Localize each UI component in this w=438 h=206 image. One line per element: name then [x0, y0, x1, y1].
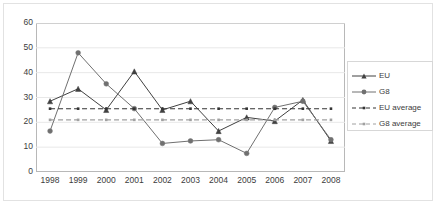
data-point-marker — [49, 119, 52, 122]
legend-swatch-icon — [351, 100, 377, 116]
y-axis-tick-label: 60 — [3, 18, 33, 27]
data-point-marker — [330, 119, 333, 122]
data-point-marker — [76, 86, 81, 91]
legend-swatch-icon — [351, 68, 377, 84]
data-point-marker — [133, 107, 136, 110]
data-point-marker — [216, 137, 221, 142]
data-point-marker — [48, 129, 53, 134]
line-chart-svg — [36, 23, 345, 172]
y-axis-tick-label: 10 — [3, 142, 33, 151]
data-point-marker — [273, 107, 276, 110]
data-point-marker — [47, 99, 52, 104]
data-point-marker — [189, 107, 192, 110]
data-point-marker — [273, 119, 276, 122]
data-point-marker — [244, 151, 249, 156]
data-point-marker — [160, 141, 165, 146]
data-point-marker — [161, 119, 164, 122]
legend-swatch-icon — [351, 116, 377, 132]
data-point-marker — [188, 99, 193, 104]
data-point-marker — [188, 139, 193, 144]
legend-label: EU average — [379, 103, 421, 113]
data-point-marker — [77, 119, 80, 122]
data-point-marker — [104, 81, 109, 86]
data-point-marker — [302, 119, 305, 122]
data-point-marker — [76, 50, 81, 55]
legend-swatch-icon — [351, 84, 377, 100]
y-axis-tick-label: 30 — [3, 93, 33, 102]
data-point-marker — [217, 107, 220, 110]
legend-label: EU — [379, 71, 390, 81]
data-point-marker — [77, 107, 80, 110]
data-point-marker — [329, 137, 334, 142]
data-point-marker — [49, 107, 52, 110]
chart-legend: EUG8EU averageG8 average — [347, 61, 433, 131]
data-point-marker — [245, 119, 248, 122]
data-point-marker — [302, 107, 305, 110]
data-point-marker — [245, 107, 248, 110]
data-point-marker — [105, 107, 108, 110]
y-axis-tick-label: 40 — [3, 68, 33, 77]
x-axis: 1998199920002001200220032004200520062007… — [36, 175, 345, 189]
y-axis: 0102030405060 — [0, 0, 33, 206]
series-line-eu — [50, 71, 331, 141]
data-point-marker — [217, 119, 220, 122]
chart-container: 0102030405060 19981999200020012002200320… — [0, 0, 438, 206]
data-point-marker — [189, 119, 192, 122]
data-point-marker — [161, 107, 164, 110]
data-point-marker — [105, 119, 108, 122]
legend-item-g8[interactable]: G8 — [351, 84, 433, 100]
y-axis-tick-label: 0 — [3, 167, 33, 176]
legend-item-eu[interactable]: EU — [351, 68, 433, 84]
data-point-marker — [330, 107, 333, 110]
legend-label: G8 — [379, 87, 390, 97]
data-point-marker — [132, 69, 137, 74]
legend-label: G8 average — [379, 119, 421, 129]
y-axis-tick-label: 50 — [3, 43, 33, 52]
legend-item-g8-average[interactable]: G8 average — [351, 116, 433, 132]
legend-item-eu-average[interactable]: EU average — [351, 100, 433, 116]
x-axis-tick-label: 2008 — [314, 175, 348, 185]
y-axis-tick-label: 20 — [3, 117, 33, 126]
data-point-marker — [300, 99, 305, 104]
data-point-marker — [133, 119, 136, 122]
